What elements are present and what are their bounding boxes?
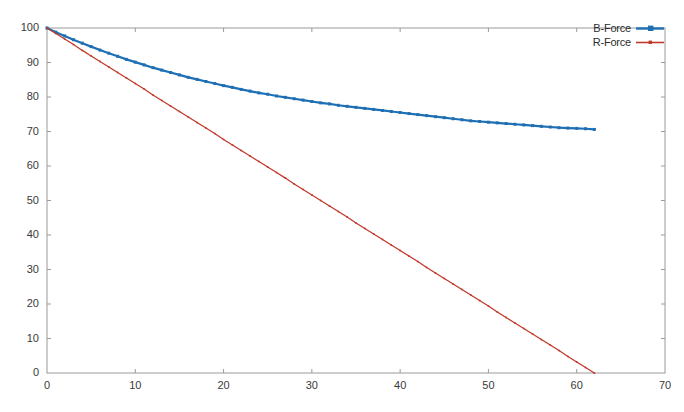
data-point-marker — [338, 211, 340, 213]
data-point-marker — [222, 84, 225, 87]
data-point-marker — [558, 126, 561, 129]
y-tick-label: 10 — [0, 333, 39, 344]
legend-swatch-b-force — [635, 23, 665, 34]
data-point-marker — [470, 294, 472, 296]
data-point-marker — [90, 55, 92, 57]
data-point-marker — [117, 72, 119, 74]
data-point-marker — [213, 82, 216, 85]
data-point-marker — [399, 111, 402, 114]
data-point-marker — [505, 122, 508, 125]
legend-label-b-force: B-Force — [593, 23, 631, 34]
data-point-marker — [391, 244, 393, 246]
y-tick-label: 0 — [0, 367, 39, 378]
y-tick-label: 70 — [0, 126, 39, 137]
data-point-marker — [540, 125, 543, 128]
data-point-marker — [408, 255, 410, 257]
data-point-marker — [373, 233, 375, 235]
chart-legend: B-Force R-Force — [593, 22, 665, 49]
data-point-marker — [558, 350, 560, 352]
data-point-marker — [407, 112, 410, 115]
data-point-marker — [160, 69, 163, 72]
data-point-marker — [90, 45, 93, 48]
data-point-marker — [205, 127, 207, 129]
data-point-marker — [523, 328, 525, 330]
data-point-marker — [513, 123, 516, 126]
data-point-marker — [126, 77, 128, 79]
data-point-marker — [505, 317, 507, 319]
axes-box — [47, 28, 665, 373]
data-point-marker — [240, 88, 243, 91]
y-tick-label: 40 — [0, 229, 39, 240]
y-tick-label: 20 — [0, 298, 39, 309]
data-point-marker — [382, 239, 384, 241]
data-point-marker — [461, 289, 463, 291]
data-point-marker — [116, 55, 119, 58]
data-point-marker — [187, 116, 189, 118]
x-tick-label: 30 — [292, 380, 332, 391]
data-point-marker — [443, 278, 445, 280]
data-point-marker — [196, 78, 199, 81]
data-point-marker — [82, 50, 84, 52]
data-point-marker — [196, 122, 198, 124]
legend-swatch-r-force — [635, 37, 665, 48]
data-point-marker — [285, 177, 287, 179]
legend-item-b-force[interactable]: B-Force — [593, 22, 665, 35]
data-point-marker — [364, 228, 366, 230]
data-point-marker — [346, 105, 349, 108]
data-point-marker — [549, 344, 551, 346]
data-point-marker — [223, 139, 225, 141]
data-point-marker — [108, 66, 110, 68]
data-point-marker — [584, 127, 587, 130]
data-point-marker — [179, 111, 181, 113]
data-point-marker — [293, 183, 295, 185]
data-point-marker — [249, 90, 252, 93]
data-point-marker — [152, 94, 154, 96]
data-point-marker — [107, 52, 110, 55]
data-point-marker — [478, 120, 481, 123]
data-point-marker — [452, 283, 454, 285]
data-point-marker — [320, 200, 322, 202]
data-point-marker — [346, 216, 348, 218]
data-point-marker — [134, 61, 137, 64]
data-point-marker — [284, 96, 287, 99]
data-point-marker — [416, 113, 419, 116]
data-point-marker — [143, 63, 146, 66]
data-point-marker — [328, 102, 331, 105]
data-point-marker — [143, 88, 145, 90]
data-point-marker — [487, 121, 490, 124]
data-point-marker — [594, 372, 596, 374]
data-point-marker — [311, 194, 313, 196]
data-point-marker — [329, 205, 331, 207]
data-point-marker — [549, 126, 552, 129]
data-point-marker — [488, 305, 490, 307]
data-point-marker — [576, 361, 578, 363]
data-point-marker — [214, 133, 216, 135]
data-point-marker — [257, 91, 260, 94]
data-point-marker — [355, 106, 358, 109]
data-point-marker — [425, 114, 428, 117]
data-point-marker — [443, 116, 446, 119]
x-tick-label: 20 — [204, 380, 244, 391]
data-point-marker — [98, 49, 101, 52]
data-point-marker — [381, 109, 384, 112]
data-point-marker — [99, 61, 101, 63]
data-point-marker — [541, 339, 543, 341]
data-point-marker — [231, 86, 234, 89]
data-point-marker — [426, 267, 428, 269]
data-point-marker — [72, 38, 75, 41]
data-point-marker — [460, 118, 463, 121]
data-point-marker — [567, 356, 569, 358]
data-point-marker — [134, 83, 136, 85]
legend-item-r-force[interactable]: R-Force — [593, 36, 665, 49]
data-point-marker — [399, 250, 401, 252]
data-point-marker — [151, 66, 154, 69]
data-point-marker — [302, 189, 304, 191]
data-point-marker — [81, 42, 84, 45]
x-tick-label: 60 — [557, 380, 597, 391]
chart-figure: 0102030405060708090100 010203040506070 B… — [0, 0, 684, 412]
legend-label-r-force: R-Force — [593, 37, 631, 48]
data-point-marker — [232, 144, 234, 146]
x-tick-label: 50 — [468, 380, 508, 391]
data-point-marker — [575, 127, 578, 130]
data-point-marker — [337, 104, 340, 107]
